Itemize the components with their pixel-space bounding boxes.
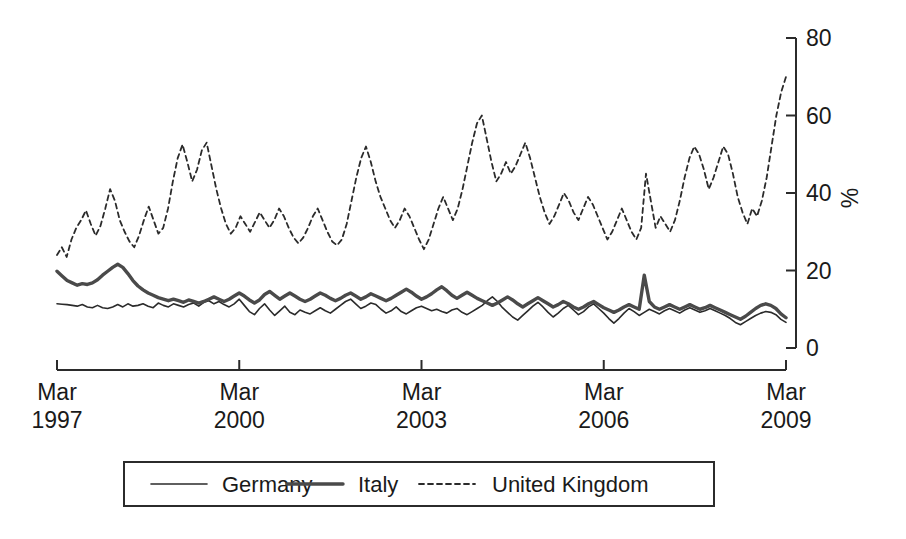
x-tick-label-month: Mar — [766, 379, 806, 405]
legend-label-united-kingdom: United Kingdom — [492, 472, 649, 497]
series-line-united-kingdom — [57, 77, 786, 257]
x-tick-label-month: Mar — [219, 379, 259, 405]
legend-label-italy: Italy — [358, 472, 398, 497]
y-axis-unit-label: % — [837, 188, 863, 208]
y-tick-label: 20 — [806, 258, 832, 284]
y-tick-group: 020406080 — [786, 25, 832, 361]
legend: GermanyItalyUnited Kingdom — [124, 462, 714, 506]
x-tick-label-year: 2003 — [396, 407, 447, 433]
y-tick-label: 60 — [806, 103, 832, 129]
chart-svg: 020406080 Mar1997Mar2000Mar2003Mar2006Ma… — [0, 0, 906, 539]
x-tick-label-year: 2009 — [760, 407, 811, 433]
x-tick-label-month: Mar — [37, 379, 77, 405]
x-tick-label-year: 2000 — [214, 407, 265, 433]
x-tick-label-year: 1997 — [31, 407, 82, 433]
series-group — [57, 77, 786, 325]
y-tick-label: 40 — [806, 180, 832, 206]
x-tick-label-year: 2006 — [578, 407, 629, 433]
y-tick-label: 80 — [806, 25, 832, 51]
x-tick-label-month: Mar — [402, 379, 442, 405]
y-axis: 020406080 — [786, 25, 832, 361]
chart-figure: 020406080 Mar1997Mar2000Mar2003Mar2006Ma… — [0, 0, 906, 539]
x-tick-label-month: Mar — [584, 379, 624, 405]
x-axis: Mar1997Mar2000Mar2003Mar2006Mar2009 — [31, 360, 811, 433]
y-tick-label: 0 — [806, 335, 819, 361]
